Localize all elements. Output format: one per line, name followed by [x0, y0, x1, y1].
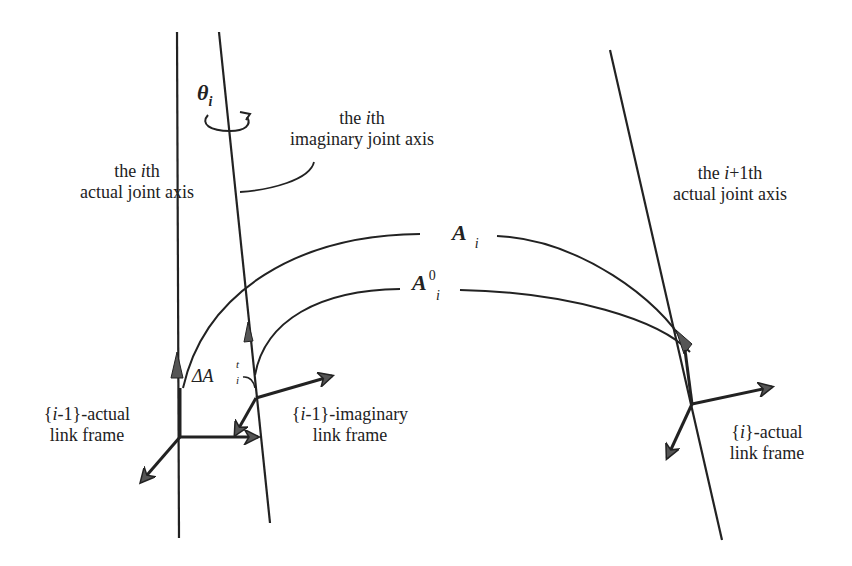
- A-i-0-label: A0 i: [412, 270, 434, 296]
- actual-axis-z-arrow-icon: [171, 352, 183, 378]
- A-i-label: Ai: [452, 220, 471, 246]
- i1th-actual-joint-axis-line: [610, 50, 722, 540]
- ith-actual-joint-axis-line: [177, 32, 179, 538]
- imaginary-axis-leader: [240, 162, 314, 192]
- i-frame-x-arrow: [692, 387, 772, 404]
- frame-i-minus-1-imaginary-label: {i-1}-imaginary link frame: [270, 404, 430, 446]
- imaginary-frame-x-arrow: [256, 376, 332, 398]
- arc-A-i-0: [255, 289, 400, 375]
- ith-actual-joint-axis-label: the ith actual joint axis: [62, 161, 212, 203]
- i1th-actual-joint-axis-label: the i+1th actual joint axis: [645, 163, 815, 205]
- imaginary-axis-z-arrow-icon: [244, 322, 253, 342]
- theta-i-label: θi: [197, 80, 212, 106]
- frame-i-minus-1-actual-label: {i-1}-actual link frame: [22, 404, 152, 446]
- ith-imaginary-joint-axis-label: the ith imaginary joint axis: [262, 108, 462, 150]
- delta-A-label: ΔA t i: [192, 366, 214, 387]
- diagram-canvas: θi the ith imaginary joint axis the ith …: [0, 0, 852, 566]
- arc-A-i-0-right: [460, 290, 690, 352]
- frame-i-actual-label: {i}-actual link frame: [712, 422, 822, 464]
- delta-A-indicator: [243, 377, 255, 388]
- imaginary-frame-y-arrow: [235, 398, 256, 435]
- ith-imaginary-joint-axis-line: [219, 32, 270, 523]
- i-frame-y-arrow: [667, 404, 692, 458]
